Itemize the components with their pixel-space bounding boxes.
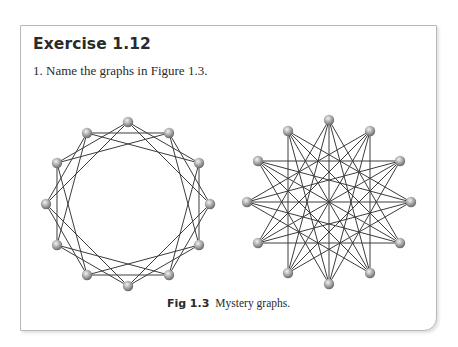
graph-node — [164, 270, 174, 280]
left-graph — [41, 117, 215, 291]
graph-node — [194, 240, 204, 250]
graph-node — [123, 281, 133, 291]
graph-node — [194, 158, 204, 168]
graph-node — [253, 156, 263, 166]
graph-edge — [288, 131, 411, 202]
graph-node — [52, 240, 62, 250]
graph-node — [253, 238, 263, 248]
graph-node — [205, 199, 215, 209]
graph-node — [365, 268, 375, 278]
graph-node — [365, 126, 375, 136]
graph-node — [395, 156, 405, 166]
mystery-graphs-figure — [0, 0, 458, 347]
graph-edge — [247, 131, 370, 202]
graph-node — [52, 158, 62, 168]
graph-node — [82, 128, 92, 138]
right-graph — [242, 115, 416, 289]
graph-node — [164, 128, 174, 138]
graph-node — [395, 238, 405, 248]
graph-node — [406, 197, 416, 207]
graph-node — [82, 270, 92, 280]
graph-edge — [258, 120, 329, 243]
graph-node — [324, 279, 334, 289]
graph-node — [283, 268, 293, 278]
graph-node — [242, 197, 252, 207]
graph-node — [283, 126, 293, 136]
graph-node — [123, 117, 133, 127]
graph-node — [41, 199, 51, 209]
graph-node — [324, 115, 334, 125]
graph-edge — [258, 161, 329, 284]
graph-edge — [247, 202, 370, 273]
